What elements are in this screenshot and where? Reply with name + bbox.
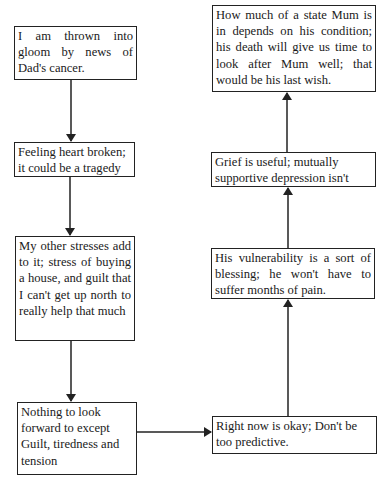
node-heart-broken: Feeling heart broken; it could be a trag…	[14, 142, 135, 177]
node-right-now-okay: Right now is okay; Don't be too predicti…	[212, 416, 377, 454]
node-mum-state: How much of a state Mum is in depends on…	[212, 5, 376, 92]
node-nothing-to-look-forward: Nothing to look forward to except Guilt,…	[17, 402, 137, 475]
node-thrown-into-gloom: I am thrown into gloom by news of Dad's …	[14, 26, 137, 80]
node-other-stresses: My other stresses add to it; stress of b…	[15, 236, 135, 341]
node-vulnerability-blessing: His vulnerability is a sort of blessing;…	[211, 248, 375, 299]
node-grief-useful: Grief is useful; mutually supportive dep…	[211, 152, 376, 187]
